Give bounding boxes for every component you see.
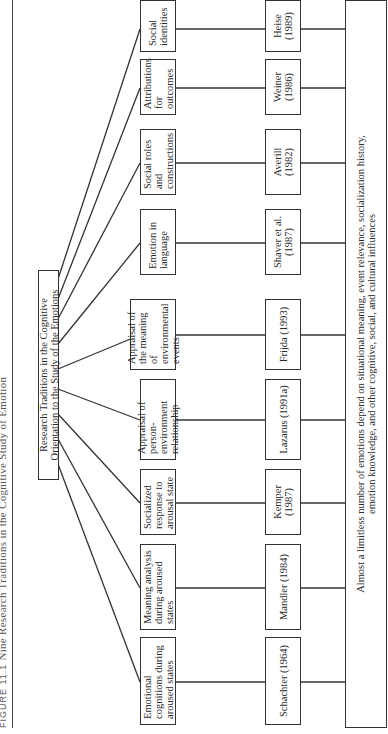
citation-box-schachter: Schachter (1964) <box>265 637 301 725</box>
figure-diagram: FIGURE 11.1 Nine Research Traditions in … <box>0 0 388 734</box>
citation-box-mandler: Mandler (1984) <box>265 544 301 630</box>
tradition-box-frijda: Appraisal of the meaning of environmenta… <box>130 299 176 370</box>
tradition-box-weiner: Attributions for outcomes <box>140 59 176 115</box>
root-box: Research Traditions in the Cognitive Ori… <box>38 270 59 480</box>
citation-box-averill: Averill (1982) <box>265 129 301 195</box>
citation-box-lazarus: Lazarus (1991a) <box>265 379 301 460</box>
tradition-box-mandler: Meaning analysis during aroused states <box>140 544 176 630</box>
citation-box-weiner: Weiner (1986) <box>265 59 301 115</box>
citation-box-heise: Heise (1989) <box>265 0 301 52</box>
citation-box-kemper: Kemper (1987) <box>265 469 301 535</box>
conclusion-box: Almost a limitless number of emotions de… <box>345 0 387 728</box>
tradition-box-kemper: Socialized response to arousal state <box>140 469 176 535</box>
conclusion-label: Almost a limitless number of emotions de… <box>355 121 377 607</box>
citation-box-shaver: Shaver et al. (1987) <box>265 209 301 275</box>
citation-box-frijda: Frijda (1993) <box>265 299 301 370</box>
tradition-box-shaver: Emotion in language <box>140 209 176 275</box>
tradition-box-lazarus: Appraisal of person-environment relation… <box>140 379 176 460</box>
tradition-box-heise: Social identities <box>140 0 176 52</box>
root-label: Research Traditions in the Cognitive Ori… <box>38 276 60 474</box>
tradition-box-averill: Social roles and constructions <box>140 129 176 195</box>
tradition-box-schachter: Emotional cognitions during aroused stat… <box>140 637 176 725</box>
